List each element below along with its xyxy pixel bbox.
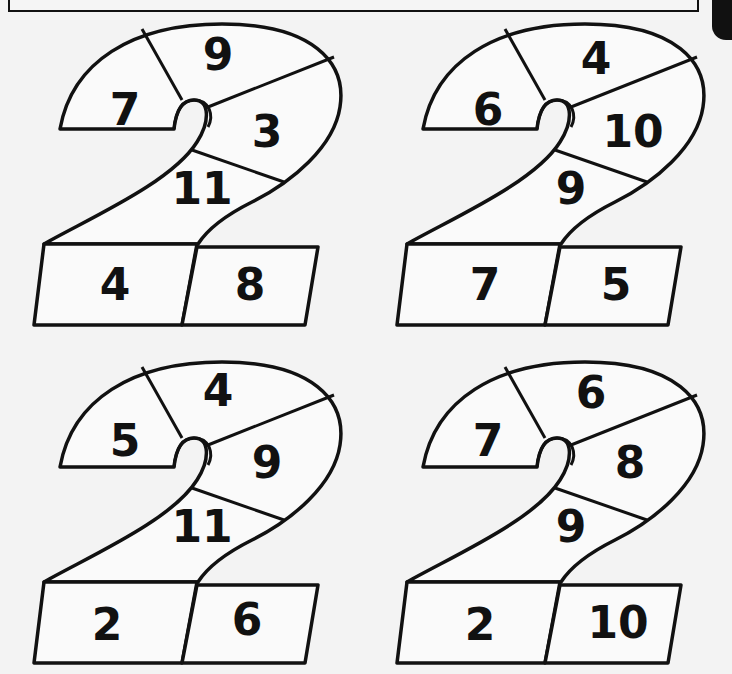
region-right: 9	[252, 437, 283, 488]
region-base-left: 4	[100, 259, 131, 310]
figure-top-left: 7 9 3 11 4 8	[34, 24, 341, 325]
region-middle: 11	[171, 163, 232, 214]
region-middle: 9	[556, 163, 587, 214]
region-right: 3	[252, 106, 283, 157]
region-base-right: 8	[235, 259, 266, 310]
region-middle: 9	[556, 501, 587, 552]
region-base-left: 2	[465, 599, 496, 650]
region-base-right: 6	[232, 594, 263, 645]
region-base-right: 5	[601, 259, 632, 310]
figure-top-right: 6 4 10 9 7 5	[397, 24, 704, 325]
figure-bottom-right: 7 6 8 9 2 10	[397, 362, 704, 663]
region-hook-left: 7	[110, 84, 141, 135]
region-hook-left: 6	[473, 84, 504, 135]
figure-bottom-left: 5 4 9 11 2 6	[34, 362, 341, 663]
region-right: 8	[615, 437, 646, 488]
region-hook-left: 5	[110, 415, 141, 466]
region-hook-left: 7	[473, 415, 504, 466]
region-top: 9	[203, 29, 234, 80]
region-top: 4	[203, 365, 234, 416]
region-top: 6	[576, 367, 607, 418]
region-base-left: 2	[92, 599, 123, 650]
region-middle: 11	[171, 501, 232, 552]
region-top: 4	[581, 33, 612, 84]
region-base-right: 10	[587, 597, 648, 648]
region-base-left: 7	[470, 259, 501, 310]
region-right: 10	[602, 106, 663, 157]
